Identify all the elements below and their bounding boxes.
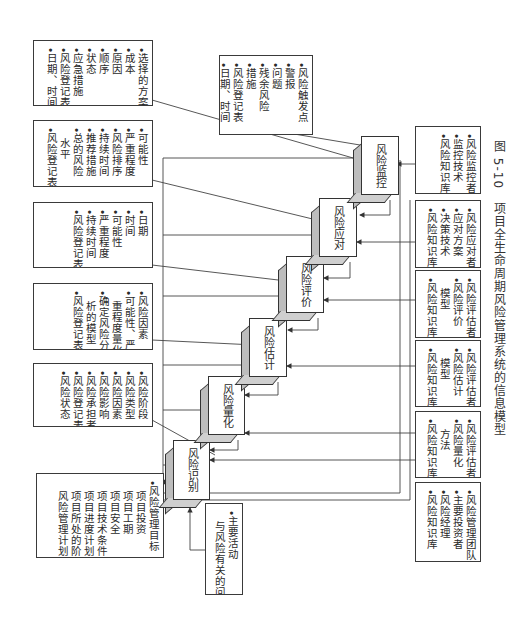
text-line: •风险登记表 — [70, 209, 83, 261]
text-line: •时间 — [122, 209, 135, 261]
text-line: •顺序 — [96, 47, 109, 99]
process-quantify: 风险量化 — [200, 376, 245, 443]
text-line: •推荐措施 — [83, 127, 96, 180]
text-line: •风险知识库 — [424, 489, 437, 555]
text-line: •持续时间 — [96, 127, 109, 180]
resource-box-quantify: •风险评估者•风险量化 方法•风险知识库 — [415, 411, 481, 478]
text-line: •状态 — [83, 47, 96, 99]
process-estimate: 风险估计 — [241, 318, 287, 385]
text-line: •风险知识库 — [437, 133, 450, 187]
text-line: •风险经理 — [437, 489, 450, 555]
text-line: •风险因素 — [109, 370, 122, 420]
text-line: •风险估计 — [450, 347, 463, 400]
output-box-quantification: •风险阶段•风险类型•风险因素•风险影响•风险承担者•风险登记表•风险状态 — [33, 363, 153, 427]
text-line: •风险知识库 — [424, 277, 437, 331]
resource-box-team: •风险管理团队•主要投资者•风险经理•风险知识库 — [415, 482, 481, 562]
text-line: •风险状态 — [57, 370, 70, 420]
text-line: 项目所处的阶段 — [68, 480, 81, 551]
text-line: •风险知识库 — [424, 347, 437, 400]
process-label: 风险估计 — [249, 318, 287, 377]
text-line: •可能性、严 — [122, 290, 135, 343]
process-label: 风险监控 — [361, 136, 399, 195]
output-box-monitoring: •选择的方案•成本•原因•顺序•状态•应急措施•风险登记表•日期、时间 — [33, 40, 153, 106]
text-line: •警报 — [282, 62, 295, 128]
process-monitor: 风险监控 — [353, 136, 399, 203]
resource-box-respond: •风险应对者•应对方案•决策技术•风险知识库 — [415, 200, 481, 268]
text-line: •风险登记表 — [70, 370, 83, 420]
process-label: 风险识别 — [173, 440, 210, 500]
text-line: •成本 — [122, 47, 135, 99]
trigger-box: •风险触发点•警报•问题•残余风险•措施•风险登记表•日期、时间 — [219, 55, 313, 135]
text-line: •风险登记表 — [230, 62, 243, 128]
text-line: •可能性 — [109, 209, 122, 261]
text-line: •风险监控者 — [463, 133, 476, 187]
text-line: •可能性 — [135, 127, 148, 180]
text-line: •风险管理团队 — [463, 489, 476, 555]
input-box-identification: •风险管理目标 项目投资 项目工期 项目安全 项目技术条件 项目进度计划 项目所… — [36, 473, 164, 558]
text-line: •确定风险分 — [96, 290, 109, 343]
text-line: •风险评估者 — [463, 418, 476, 471]
text-line: 项目投资 — [133, 480, 146, 551]
text-line: •风险影响 — [96, 370, 109, 420]
text-line: •主要活动 — [225, 510, 238, 588]
text-line: •风险知识库 — [424, 207, 437, 261]
figure-caption: 图 5-10 项目全生命周期风险管理系统的信息模型 — [490, 140, 507, 600]
text-line: •监控技术 — [450, 133, 463, 187]
text-line: •日期 — [135, 209, 148, 261]
process-respond: 风险应对 — [311, 198, 357, 265]
text-line: •风险阶段 — [135, 370, 148, 420]
text-line: •风险因素 — [135, 290, 148, 343]
process-label: 风险应对 — [319, 198, 357, 257]
text-line: •风险登记表 — [57, 47, 70, 99]
text-line: •措施 — [243, 62, 256, 128]
text-line: •残余风险 — [256, 62, 269, 128]
output-box-response: •可能性•严重程度•风险排序•持续时间•推荐措施•总的风险 水平•风险登记表 — [33, 120, 153, 187]
text-line: •风险知识库 — [424, 418, 437, 471]
text-line: •风险登记表 — [44, 127, 57, 180]
text-line: •风险承担者 — [83, 370, 96, 420]
resource-box-monitor: •风险监控者•监控技术•风险知识库 — [415, 126, 481, 194]
output-box-evaluation: •日期•时间•可能性•严重程度•持续时间•风险登记表 — [33, 202, 153, 268]
text-line: •风险管理目标 — [146, 480, 159, 551]
text-line: 项目安全 — [107, 480, 120, 551]
text-line: 模型 — [437, 347, 450, 400]
activity-box: •主要活动 与风险有关的问题 — [205, 503, 243, 595]
text-line: 重程度量化 — [109, 290, 122, 343]
text-line: •风险登记表 — [70, 290, 83, 343]
text-line: •风险触发点 — [295, 62, 308, 128]
text-line: •应对方案 — [450, 207, 463, 261]
text-line: •风险量化 — [450, 418, 463, 471]
text-line: 与风险有关的问题 — [212, 510, 225, 588]
text-line: •严重程度 — [96, 209, 109, 261]
text-line: •持续时间 — [83, 209, 96, 261]
resource-box-estimate: •风险评估者•风险估计 模型•风险知识库 — [415, 340, 481, 407]
resource-box-evaluate: •风险评估者•风险评价 模型•风险知识库 — [415, 270, 481, 338]
text-line: 方法 — [437, 418, 450, 471]
text-line: •主要投资者 — [450, 489, 463, 555]
text-line: •选择的方案 — [135, 47, 148, 99]
text-line: •风险排序 — [109, 127, 122, 180]
text-line: •风险类型 — [122, 370, 135, 420]
text-line: 项目进度计划 — [81, 480, 94, 551]
text-line: 项目工期 — [120, 480, 133, 551]
text-line: •日期、时间 — [44, 47, 57, 99]
text-line: •风险评价 — [450, 277, 463, 331]
text-line: 模型 — [437, 277, 450, 331]
text-line: •严重程度 — [122, 127, 135, 180]
text-line: 风险管理计划 — [55, 480, 68, 551]
text-line: 项目技术条件 — [94, 480, 107, 551]
text-line: •总的风险 — [70, 127, 83, 180]
text-line: •原因 — [109, 47, 122, 99]
output-box-estimation: •风险因素•可能性、严 重程度量化•确定风险分 析的模型•风险登记表 — [33, 283, 153, 350]
text-line: •风险评估者 — [463, 277, 476, 331]
text-line: •日期、时间 — [219, 62, 230, 128]
process-identify: 风险识别 — [165, 440, 210, 508]
text-line: •决策技术 — [437, 207, 450, 261]
text-line: •风险应对者 — [463, 207, 476, 261]
text-line: •风险评估者 — [463, 347, 476, 400]
text-line: 析的模型 — [83, 290, 96, 343]
text-line: 水平 — [57, 127, 70, 180]
text-line: •问题 — [269, 62, 282, 128]
text-line: •应急措施 — [70, 47, 83, 99]
